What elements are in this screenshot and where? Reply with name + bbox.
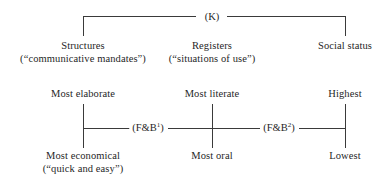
connector-fb1-right xyxy=(168,128,212,129)
most-economical-title: Most economical xyxy=(46,150,120,161)
connector-fb2-right xyxy=(299,128,345,129)
scale-top-label-most-elaborate: Most elaborate xyxy=(51,88,115,101)
bracket-label-k: (K) xyxy=(202,11,223,22)
most-economical-gloss: (“quick and easy”) xyxy=(43,163,124,176)
structures-title: Structures xyxy=(61,40,105,51)
connector-fb2-left xyxy=(212,128,260,129)
connector-label-fb1: (F&B1) xyxy=(129,122,167,133)
scale-axis-status xyxy=(345,104,346,148)
bracket-top-segment-left xyxy=(83,16,196,17)
scale-top-label-most-literate: Most literate xyxy=(185,88,240,101)
fb2-label-post: ) xyxy=(291,122,295,133)
connector-fb1-left xyxy=(83,128,130,129)
registers-gloss: (“situations of use”) xyxy=(169,53,256,66)
bracket-right-drop xyxy=(345,16,346,36)
column-label-registers: Registers (“situations of use”) xyxy=(169,40,256,65)
connector-label-fb2: (F&B2) xyxy=(260,122,298,133)
column-label-social-status: Social status xyxy=(318,40,372,53)
registers-title: Registers xyxy=(192,40,232,51)
knowledge-register-status-diagram: (K) Structures (“communicative mandates”… xyxy=(0,0,383,182)
scale-bottom-label-lowest: Lowest xyxy=(329,150,361,163)
bracket-left-drop xyxy=(83,16,84,36)
structures-gloss: (“communicative mandates”) xyxy=(20,53,146,66)
scale-axis-literacy xyxy=(212,104,213,148)
social-status-title: Social status xyxy=(318,40,372,51)
fb1-label-pre: (F&B xyxy=(132,122,157,133)
fb1-label-post: ) xyxy=(160,122,164,133)
scale-axis-elaboration xyxy=(83,104,84,148)
scale-top-label-highest: Highest xyxy=(328,88,361,101)
scale-bottom-label-most-oral: Most oral xyxy=(191,150,232,163)
column-label-structures: Structures (“communicative mandates”) xyxy=(20,40,146,65)
bracket-top-segment-right xyxy=(227,16,345,17)
fb2-label-pre: (F&B xyxy=(263,122,288,133)
scale-bottom-label-most-economical: Most economical (“quick and easy”) xyxy=(43,150,124,175)
